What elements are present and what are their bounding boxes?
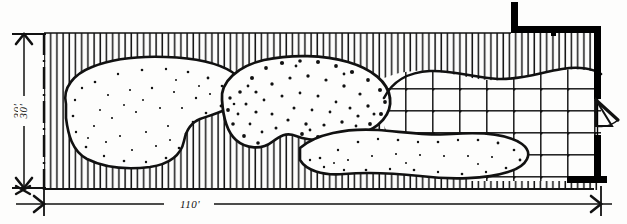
plan-canvas: 30' 30' 110': [0, 0, 627, 224]
dimension-vertical-label-text: 30': [17, 103, 29, 119]
site-plan-drawing: 30' 30' 110': [0, 0, 627, 224]
dimension-horizontal-110ft: 110': [16, 186, 612, 216]
dimension-vertical-30ft: 30' 30': [11, 34, 46, 188]
dimension-horizontal-label: 110': [180, 198, 200, 210]
